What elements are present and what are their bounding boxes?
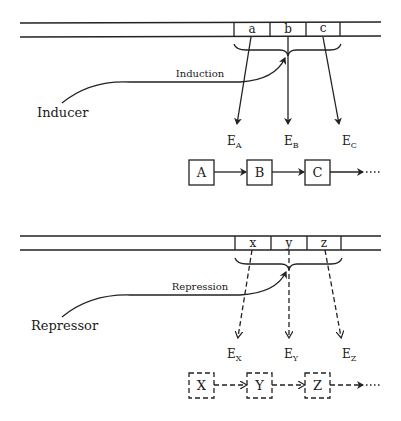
- gene-b: b: [284, 22, 292, 36]
- metabolite-a-label: A: [196, 165, 207, 180]
- enzyme-y-label: EY: [284, 347, 299, 363]
- gene-x: x: [250, 236, 257, 250]
- enzyme-x-label: EX: [227, 347, 242, 363]
- repressor-arrow: [62, 272, 286, 317]
- gene-a: a: [248, 22, 255, 36]
- enzyme-b-label: EB: [284, 134, 299, 150]
- inducer-arrow: [62, 58, 285, 103]
- metabolite-z-label: Z: [313, 378, 322, 393]
- metabolite-x-label: X: [197, 378, 207, 393]
- gene-c: c: [320, 21, 327, 35]
- repression-panel: x y z Repression Repressor EX EY EZ X Y …: [20, 236, 382, 398]
- metabolite-y-label: Y: [254, 378, 264, 393]
- induction-label: Induction: [176, 68, 225, 79]
- repression-label: Repression: [172, 281, 229, 292]
- enzyme-z-label: EZ: [342, 347, 357, 363]
- gene-z: z: [321, 236, 327, 250]
- dna-strip-induction: [20, 22, 381, 37]
- metabolite-b-label: B: [255, 165, 265, 180]
- gene-y: y: [285, 236, 293, 250]
- repressor-label: Repressor: [31, 318, 99, 333]
- inducer-label: Inducer: [37, 105, 89, 120]
- enzyme-c-label: EC: [342, 134, 357, 150]
- enzyme-a-label: EA: [227, 134, 242, 150]
- metabolite-c-label: C: [313, 165, 323, 180]
- induction-panel: a b c Induction Inducer EA EB EC A B C: [20, 21, 382, 185]
